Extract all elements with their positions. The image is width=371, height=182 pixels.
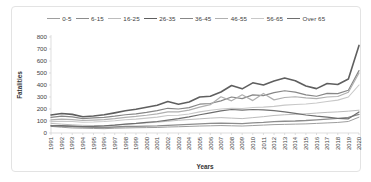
legend-label: 0-5 [62, 15, 71, 22]
y-tick-label: 200 [37, 105, 48, 112]
x-tick-label: 2013 [282, 136, 288, 150]
legend-line-swatch [215, 18, 228, 19]
legend-label: 16-25 [123, 15, 139, 22]
x-tick-label: 2000 [144, 136, 150, 150]
legend-line-swatch [144, 18, 157, 19]
y-tick-label: 500 [37, 69, 48, 76]
x-tick-label: 1995 [91, 136, 97, 150]
x-tick-label: 1999 [133, 137, 139, 150]
x-tick-label: 2002 [165, 137, 171, 150]
x-tick-label: 2014 [292, 136, 298, 150]
legend-label: 56-65 [267, 15, 283, 22]
x-tick-label: 2008 [229, 136, 235, 150]
x-tick-label: 2009 [239, 137, 245, 150]
line-chart-svg: 0100200300400500600700800 19911992199319… [12, 29, 362, 173]
x-tick-label: 2010 [250, 136, 256, 150]
x-tick-label: 1992 [59, 137, 65, 150]
legend-label: 46-55 [231, 15, 247, 22]
legend-label: Over 65 [302, 15, 325, 22]
legend-item-0-5[interactable]: 0-5 [47, 15, 72, 22]
x-tick-label: 2001 [154, 137, 160, 150]
x-tick-label: 1998 [123, 136, 129, 150]
x-tick-label: 1991 [48, 137, 54, 150]
y-axis-title: Fatalities [16, 71, 23, 99]
legend-label: 36-45 [195, 15, 211, 22]
y-tick-label: 100 [37, 117, 48, 124]
x-tick-label: 2020 [356, 136, 362, 150]
y-tick-label: 800 [37, 33, 48, 40]
y-tick-label: 600 [37, 57, 48, 64]
x-tick-label: 2012 [271, 137, 277, 150]
x-tick-label: 1997 [112, 137, 118, 150]
x-tick-label: 1993 [69, 136, 75, 150]
legend-item-over-65[interactable]: Over 65 [287, 15, 325, 22]
legend-item-26-35[interactable]: 26-35 [144, 15, 176, 22]
legend-label: 6-15 [91, 15, 104, 22]
chart-card: 0-56-1516-2526-3536-4546-5556-65Over 65 … [11, 6, 361, 172]
x-tick-label: 2017 [324, 137, 330, 150]
x-tick-label: 2019 [346, 137, 352, 150]
legend-line-swatch [180, 18, 193, 19]
legend-item-56-65[interactable]: 56-65 [251, 15, 283, 22]
y-tick-label: 700 [37, 45, 48, 52]
chart-legend: 0-56-1516-2526-3536-4546-5556-65Over 65 [12, 15, 360, 22]
x-tick-label: 1994 [80, 136, 86, 150]
legend-line-swatch [287, 18, 300, 19]
x-tick-label: 2007 [218, 137, 224, 150]
x-tick-label: 2005 [197, 136, 203, 150]
series-group [51, 45, 359, 128]
x-tick-label: 2004 [186, 136, 192, 150]
legend-label: 26-35 [159, 15, 175, 22]
legend-line-swatch [108, 18, 121, 19]
y-tick-label: 0 [44, 129, 48, 136]
x-tick-label: 2015 [303, 136, 309, 150]
legend-item-16-25[interactable]: 16-25 [108, 15, 140, 22]
y-tick-label: 300 [37, 93, 48, 100]
plot-area: 0100200300400500600700800 19911992199319… [12, 29, 362, 173]
legend-line-swatch [76, 18, 89, 19]
x-tick-label: 2003 [176, 136, 182, 150]
x-axis-title: Years [196, 163, 214, 170]
legend-line-swatch [251, 18, 264, 19]
legend-line-swatch [47, 18, 60, 19]
x-tick-label: 2016 [314, 136, 320, 150]
y-tick-label: 400 [37, 81, 48, 88]
legend-item-36-45[interactable]: 36-45 [180, 15, 212, 22]
y-axis-ticks: 0100200300400500600700800 [37, 33, 51, 136]
x-tick-label: 1996 [101, 136, 107, 150]
x-tick-label: 2006 [208, 136, 214, 150]
legend-item-46-55[interactable]: 46-55 [215, 15, 247, 22]
x-tick-label: 2011 [261, 137, 267, 150]
x-axis-ticks: 1991199219931994199519961997199819992000… [48, 133, 362, 150]
legend-item-6-15[interactable]: 6-15 [76, 15, 104, 22]
x-tick-label: 2018 [335, 136, 341, 150]
